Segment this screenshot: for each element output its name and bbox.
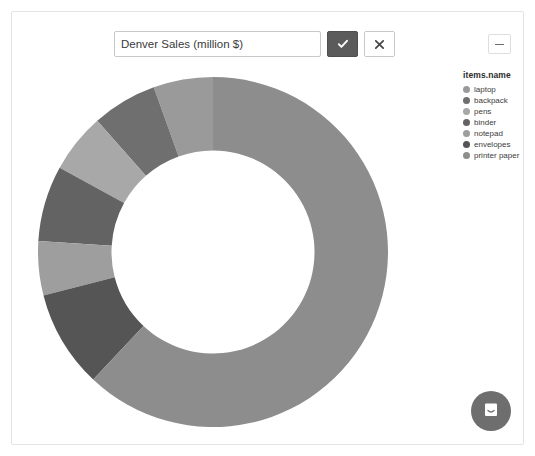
legend-swatch-icon xyxy=(463,152,470,159)
donut-chart xyxy=(30,74,445,429)
legend-item-label: pens xyxy=(474,106,491,117)
chart-title-editor xyxy=(114,31,395,57)
chart-title-input[interactable] xyxy=(114,31,321,57)
chart-panel: items.name laptop backpack pens binder n… xyxy=(11,11,524,445)
legend-swatch-icon xyxy=(463,86,470,93)
legend-swatch-icon xyxy=(463,119,470,126)
legend-swatch-icon xyxy=(463,141,470,148)
legend-item-envelopes[interactable]: envelopes xyxy=(463,139,535,150)
legend-title: items.name xyxy=(463,70,535,80)
legend-item-label: printer paper xyxy=(474,150,519,161)
donut-chart-svg[interactable] xyxy=(30,74,445,429)
legend-item-laptop[interactable]: laptop xyxy=(463,84,535,95)
close-icon xyxy=(374,39,385,50)
app-root: items.name laptop backpack pens binder n… xyxy=(0,0,535,456)
legend-item-backpack[interactable]: backpack xyxy=(463,95,535,106)
legend-swatch-icon xyxy=(463,97,470,104)
legend-item-pens[interactable]: pens xyxy=(463,106,535,117)
chat-launcher-button[interactable] xyxy=(471,391,511,431)
legend-item-printer-paper[interactable]: printer paper xyxy=(463,150,535,161)
legend-item-label: laptop xyxy=(474,84,496,95)
chat-bubble-icon xyxy=(480,399,502,424)
legend-item-label: notepad xyxy=(474,128,503,139)
legend-item-notepad[interactable]: notepad xyxy=(463,128,535,139)
chart-legend: items.name laptop backpack pens binder n… xyxy=(452,70,535,161)
legend-item-binder[interactable]: binder xyxy=(463,117,535,128)
legend-item-label: envelopes xyxy=(474,139,510,150)
confirm-title-button[interactable] xyxy=(327,31,358,57)
legend-swatch-icon xyxy=(463,130,470,137)
legend-item-label: backpack xyxy=(474,95,508,106)
legend-item-label: binder xyxy=(474,117,496,128)
check-icon xyxy=(337,38,349,50)
minimize-button[interactable] xyxy=(488,34,511,54)
minimize-icon xyxy=(495,44,504,45)
cancel-title-button[interactable] xyxy=(364,31,395,57)
legend-swatch-icon xyxy=(463,108,470,115)
